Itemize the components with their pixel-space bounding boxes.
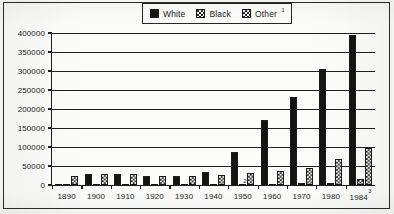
bar-group-1950: 21950 (228, 33, 257, 185)
bar-footnote-marker-black-1950: 2 (243, 178, 246, 184)
bar-black-1960[interactable] (269, 184, 276, 185)
y-axis-label: 300000 (18, 67, 45, 76)
bar-white-1970[interactable] (290, 97, 297, 185)
bar-other-1940[interactable] (218, 175, 225, 185)
bar-group-1960: 1960 (258, 33, 287, 185)
bar-other-1890[interactable] (71, 176, 78, 186)
bar-group-1890: 1890 (52, 33, 81, 185)
x-axis-label-1950: 1950 (234, 192, 252, 201)
chart-figure: White Black Other1 400000350000300000250… (0, 0, 394, 214)
x-axis-label-1970: 1970 (292, 192, 310, 201)
bar-black-1940[interactable] (210, 184, 217, 185)
legend-label-other: Other (255, 9, 277, 19)
bar-group-1984: 819843 (346, 33, 375, 185)
x-axis-label-1890: 1890 (58, 192, 76, 201)
x-axis-label-1984: 19843 (350, 192, 371, 202)
bar-white-1960[interactable] (261, 120, 268, 185)
x-axis-label-1900: 1900 (87, 192, 105, 201)
bar-other-1984[interactable] (365, 148, 372, 185)
bar-other-1900[interactable] (101, 174, 108, 185)
x-axis-label-1960: 1960 (263, 192, 281, 201)
legend-label-black: Black (209, 9, 231, 19)
bar-group-1920: 1920 (140, 33, 169, 185)
chart-legend: White Black Other1 (142, 3, 292, 24)
x-axis-label-text: 1920 (146, 192, 164, 201)
bar-other-1950[interactable] (247, 173, 254, 185)
legend-swatch-black-icon (196, 9, 205, 18)
y-axis-label: 200000 (18, 105, 45, 114)
x-axis-label-text: 1960 (263, 192, 281, 201)
x-axis-label-1930: 1930 (175, 192, 193, 201)
legend-label-white: White (163, 9, 185, 19)
x-axis-label-text: 1910 (116, 192, 134, 201)
plot-area: 4000003500003000002500002000001500001000… (51, 33, 375, 186)
bar-group-1910: 1910 (111, 33, 140, 185)
legend-swatch-white-icon (150, 9, 159, 18)
bar-white-1980[interactable] (319, 69, 326, 185)
legend-entry-black[interactable]: Black (196, 9, 231, 19)
x-axis-label-text: 1970 (292, 192, 310, 201)
bar-other-1980[interactable] (335, 159, 342, 185)
x-axis-label-1980: 1980 (322, 192, 340, 201)
y-axis-label: 400000 (18, 29, 45, 38)
legend-entry-other[interactable]: Other1 (242, 9, 284, 19)
bar-black-1900[interactable] (93, 184, 100, 185)
y-axis-label: 0 (40, 181, 45, 190)
bar-other-1970[interactable] (306, 168, 313, 185)
x-axis-label-text: 1930 (175, 192, 193, 201)
bar-white-1950[interactable] (231, 152, 238, 185)
x-axis-label-text: 1980 (322, 192, 340, 201)
bar-white-1910[interactable] (114, 174, 121, 185)
bar-black-1910[interactable] (122, 184, 129, 185)
y-axis-label: 100000 (18, 143, 45, 152)
bar-black-1920[interactable] (151, 184, 158, 185)
bar-group-1900: 1900 (81, 33, 110, 185)
x-axis-footnote-marker-1984: 3 (368, 188, 371, 194)
x-axis-label-1910: 1910 (116, 192, 134, 201)
bar-black-1970[interactable] (298, 183, 305, 185)
bar-black-1984[interactable]: 8 (357, 179, 364, 185)
y-axis-label: 150000 (18, 124, 45, 133)
x-axis-label-text: 1984 (350, 193, 368, 202)
x-axis-label-1920: 1920 (146, 192, 164, 201)
bar-group-1970: 1970 (287, 33, 316, 185)
bar-other-1960[interactable] (277, 171, 284, 185)
x-axis-label-text: 1950 (234, 192, 252, 201)
x-axis-label-text: 1900 (87, 192, 105, 201)
x-axis-label-1940: 1940 (204, 192, 222, 201)
bar-black-1980[interactable] (327, 183, 334, 185)
bar-group-1980: 1980 (316, 33, 345, 185)
legend-swatch-other-icon (242, 9, 251, 18)
bar-group-1930: 1930 (169, 33, 198, 185)
bar-black-1890[interactable] (63, 184, 70, 185)
bar-white-1890[interactable] (55, 184, 62, 185)
legend-entry-white[interactable]: White (150, 9, 185, 19)
y-axis-label: 250000 (18, 86, 45, 95)
legend-footnote-marker-other: 1 (282, 8, 285, 14)
bar-white-1920[interactable] (143, 176, 150, 186)
x-axis-label-text: 1890 (58, 192, 76, 201)
y-axis-label: 50000 (22, 162, 45, 171)
bar-other-1920[interactable] (159, 176, 166, 186)
bar-white-1940[interactable] (202, 172, 209, 185)
x-axis-label-text: 1940 (204, 192, 222, 201)
bar-white-1984[interactable] (349, 35, 356, 185)
bar-white-1930[interactable] (173, 176, 180, 185)
bar-other-1910[interactable] (130, 174, 137, 185)
y-axis-label: 350000 (18, 48, 45, 57)
bar-groups: 1890190019101920193019402195019601970198… (52, 33, 375, 185)
bar-black-1950[interactable]: 2 (239, 184, 246, 185)
bar-black-1930[interactable] (181, 184, 188, 185)
bar-white-1900[interactable] (85, 174, 92, 185)
bar-group-1940: 1940 (199, 33, 228, 185)
bar-other-1930[interactable] (189, 176, 196, 186)
